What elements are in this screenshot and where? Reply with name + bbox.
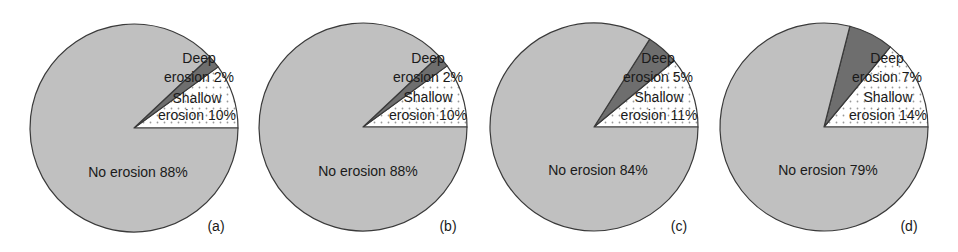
panel-label: (c) xyxy=(671,218,687,234)
panel-label: (a) xyxy=(207,218,224,234)
no-erosion-label: No erosion 88% xyxy=(88,164,188,180)
shallow-erosion-value: erosion 10% xyxy=(389,107,467,123)
pie-chart-b: Deeperosion 2%Shallowerosion 10%No erosi… xyxy=(259,23,467,234)
erosion-pie-figure: Deeperosion 2%Shallowerosion 10%No erosi… xyxy=(0,0,958,252)
no-erosion-label: No erosion 79% xyxy=(778,162,878,178)
deep-erosion-label: Deep xyxy=(182,50,216,66)
no-erosion-label: No erosion 84% xyxy=(548,162,648,178)
shallow-erosion-label: Shallow xyxy=(403,89,453,105)
pie-charts-canvas: Deeperosion 2%Shallowerosion 10%No erosi… xyxy=(0,0,958,252)
shallow-erosion-label: Shallow xyxy=(172,90,222,106)
pie-chart-d: Deeperosion 7%Shallowerosion 14%No erosi… xyxy=(720,23,928,234)
shallow-erosion-label: Shallow xyxy=(634,89,684,105)
pie-chart-a: Deeperosion 2%Shallowerosion 10%No erosi… xyxy=(30,24,238,234)
deep-erosion-label: Deep xyxy=(411,50,445,66)
shallow-erosion-value: erosion 11% xyxy=(621,107,698,123)
deep-erosion-label: Deep xyxy=(641,50,675,66)
shallow-erosion-label: Shallow xyxy=(863,89,913,105)
panel-label: (b) xyxy=(439,218,456,234)
deep-erosion-value: erosion 2% xyxy=(393,69,463,85)
no-erosion-label: No erosion 88% xyxy=(318,163,418,179)
deep-erosion-value: erosion 2% xyxy=(164,69,234,85)
pie-chart-c: Deeperosion 5%Shallowerosion 11%No erosi… xyxy=(490,23,698,234)
shallow-erosion-value: erosion 14% xyxy=(849,107,927,123)
deep-erosion-label: Deep xyxy=(870,50,904,66)
shallow-erosion-value: erosion 10% xyxy=(158,107,236,123)
deep-erosion-value: erosion 5% xyxy=(623,69,693,85)
deep-erosion-value: erosion 7% xyxy=(852,69,922,85)
panel-label: (d) xyxy=(900,218,917,234)
